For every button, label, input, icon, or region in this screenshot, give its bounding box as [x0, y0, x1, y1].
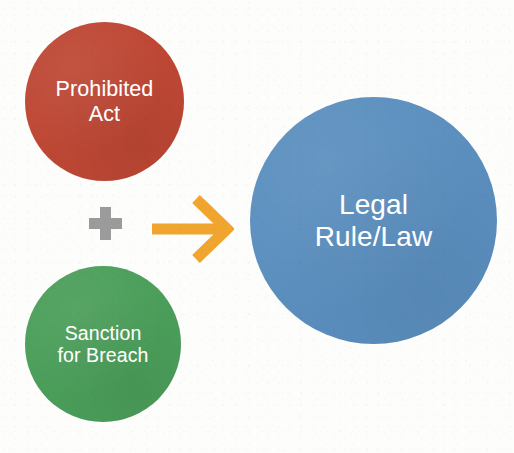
- arrow-right-icon: [148, 193, 234, 265]
- plus-icon: [89, 207, 122, 240]
- node-prohibited-act[interactable]: Prohibited Act: [25, 22, 184, 181]
- node-sanction-for-breach[interactable]: Sanction for Breach: [25, 266, 181, 422]
- node-legal-rule-law-label: Legal Rule/Law: [315, 189, 433, 253]
- node-legal-rule-law[interactable]: Legal Rule/Law: [250, 97, 497, 344]
- plus-icon-vertical-bar: [100, 207, 111, 240]
- node-prohibited-act-label: Prohibited Act: [56, 77, 154, 126]
- diagram-canvas: Prohibited Act Sanction for Breach Legal…: [0, 0, 514, 453]
- node-sanction-for-breach-label: Sanction for Breach: [58, 322, 149, 366]
